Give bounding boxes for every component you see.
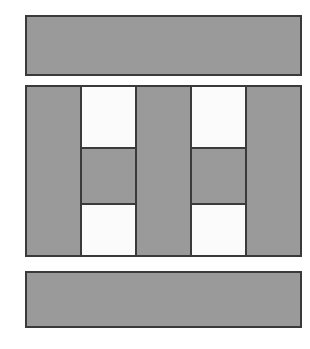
left-cell-1 — [80, 87, 137, 147]
left-cell-column — [80, 87, 137, 255]
top-bar-label — [27, 17, 28, 18]
left-cell-1-label — [82, 87, 83, 88]
right-cell-3-label — [192, 205, 193, 206]
top-bar — [25, 15, 302, 76]
figure-canvas — [0, 0, 310, 349]
right-cell-2 — [190, 147, 247, 205]
right-cell-2-label — [192, 149, 193, 150]
right-cell-column — [190, 87, 247, 255]
middle-panel-label — [27, 87, 28, 88]
right-cell-3 — [190, 205, 247, 255]
right-cell-1 — [190, 87, 247, 147]
left-cell-3-label — [82, 205, 83, 206]
left-cell-3 — [80, 205, 137, 255]
left-cell-2-label — [82, 149, 83, 150]
middle-panel — [25, 85, 302, 257]
right-cell-1-label — [192, 87, 193, 88]
left-cell-2 — [80, 147, 137, 205]
bottom-bar-label — [27, 273, 28, 274]
bottom-bar — [25, 271, 302, 328]
